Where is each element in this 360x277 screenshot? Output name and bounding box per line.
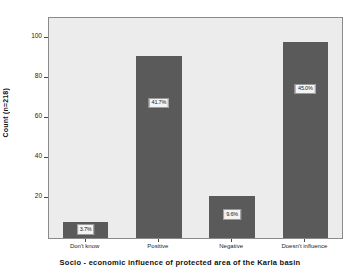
bar: 9.6%	[209, 196, 254, 238]
x-axis-tick-mark	[158, 239, 159, 242]
y-axis-tick: 60	[0, 117, 48, 118]
chart-figure: Count (n=218) 20406080100 3.7%41.7%9.6%4…	[0, 0, 360, 277]
y-axis-tick: 40	[0, 157, 48, 158]
x-axis: Don't knowPositiveNegativeDoesn't influe…	[48, 239, 343, 253]
bar-value-label: 9.6%	[223, 209, 241, 220]
y-axis-tick: 80	[0, 77, 48, 78]
y-axis-tick-label: 60	[35, 112, 42, 119]
x-axis-tick-label: Don't know	[70, 243, 100, 249]
plot-area: 3.7%41.7%9.6%45.0%	[48, 17, 343, 239]
y-axis-tick-label: 100	[31, 32, 42, 39]
x-axis-tick-mark	[304, 239, 305, 242]
bar-value-label: 3.7%	[77, 224, 95, 235]
bar: 45.0%	[283, 42, 328, 238]
bar-value-label: 45.0%	[295, 84, 316, 95]
y-axis-tick-label: 20	[35, 192, 42, 199]
bar: 3.7%	[63, 222, 108, 238]
x-axis-tick-mark	[231, 239, 232, 242]
bar-value-label: 41.7%	[149, 98, 170, 109]
x-axis-tick-mark	[85, 239, 86, 242]
y-axis-tick-label: 80	[35, 72, 42, 79]
x-axis-tick-label: Positive	[147, 243, 168, 249]
bar: 41.7%	[136, 56, 181, 238]
x-axis-title: Socio - economic influence of protected …	[0, 258, 360, 267]
x-axis-tick-label: Negative	[219, 243, 243, 249]
y-axis-tick: 100	[0, 37, 48, 38]
y-axis-tick: 20	[0, 197, 48, 198]
y-axis-tick-label: 40	[35, 152, 42, 159]
y-axis: 20406080100	[0, 17, 48, 239]
x-axis-tick-label: Doesn't influence	[281, 243, 327, 249]
